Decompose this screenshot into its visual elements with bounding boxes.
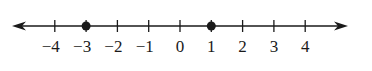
tick-label: −3	[73, 37, 91, 56]
tick-labels: −4−3−2−101234	[42, 37, 310, 56]
tick-label: −4	[42, 37, 61, 56]
tick-label: 0	[176, 37, 185, 56]
tick-label: 4	[301, 37, 310, 56]
tick-label: −2	[104, 37, 122, 56]
closed-dot-icon	[207, 22, 216, 31]
number-line: −4−3−2−101234	[0, 0, 372, 71]
tick-label: 2	[238, 37, 247, 56]
tick-label: 3	[270, 37, 279, 56]
closed-dot-icon	[82, 22, 91, 31]
tick-label: 1	[207, 37, 216, 56]
tick-label: −1	[136, 37, 154, 56]
